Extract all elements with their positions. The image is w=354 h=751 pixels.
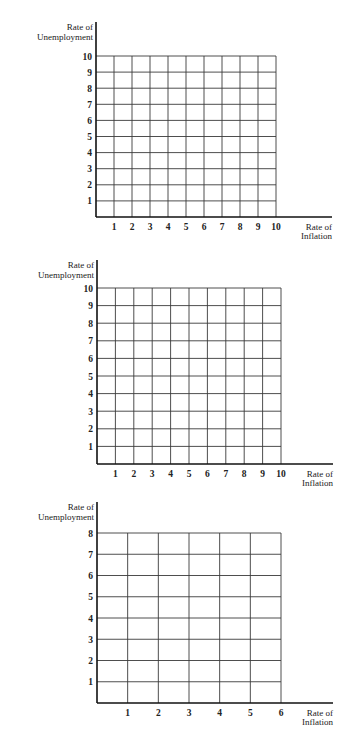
x-tick-label: 5 — [184, 222, 189, 232]
y-tick-label: 2 — [87, 180, 92, 190]
x-tick-label: 2 — [156, 708, 161, 718]
x-tick-label: 3 — [187, 708, 192, 718]
x-tick-label: 3 — [148, 222, 153, 232]
y-tick-label: 4 — [88, 389, 93, 399]
chart-canvas: 1234567891012345678910Rate ofUnemploymen… — [0, 0, 354, 751]
x-axis-label: Rate ofInflation — [301, 222, 332, 241]
y-tick-label: 6 — [88, 571, 93, 581]
y-axis-label: Rate ofUnemployment — [38, 260, 94, 280]
x-tick-label: 1 — [125, 708, 130, 718]
x-tick-label: 5 — [248, 708, 253, 718]
grid — [97, 288, 281, 464]
x-tick-label: 4 — [166, 222, 171, 232]
chart-2: 1234567891012345678910Rate ofUnemploymen… — [38, 260, 333, 488]
chart-1: 1234567891012345678910Rate ofUnemploymen… — [37, 22, 332, 241]
y-tick-label: 5 — [87, 132, 92, 142]
x-tick-label: 6 — [202, 222, 207, 232]
y-tick-label: 2 — [88, 656, 93, 666]
grid — [96, 56, 276, 217]
y-tick-label: 1 — [87, 196, 92, 206]
x-tick-label: 6 — [205, 469, 210, 479]
y-tick-label: 5 — [88, 372, 93, 382]
y-tick-label: 3 — [87, 164, 92, 174]
x-tick-label: 7 — [223, 469, 228, 479]
x-tick-label: 10 — [271, 222, 281, 232]
x-axis-label: Rate ofInflation — [302, 708, 333, 727]
x-tick-label: 9 — [260, 469, 265, 479]
y-axis-label: Rate ofUnemployment — [37, 22, 93, 42]
x-tick-label: 8 — [242, 469, 247, 479]
y-tick-label: 8 — [88, 529, 93, 539]
y-tick-label: 1 — [88, 677, 93, 687]
y-tick-label: 3 — [88, 407, 93, 417]
x-tick-label: 8 — [238, 222, 243, 232]
x-tick-label: 2 — [131, 469, 136, 479]
grid — [97, 533, 281, 703]
y-tick-label: 10 — [83, 52, 93, 62]
x-tick-label: 1 — [113, 469, 118, 479]
x-tick-label: 3 — [150, 469, 155, 479]
x-tick-label: 10 — [276, 469, 286, 479]
y-tick-label: 7 — [88, 550, 93, 560]
y-tick-label: 7 — [87, 100, 92, 110]
x-axis-label: Rate ofInflation — [302, 469, 333, 488]
y-tick-label: 5 — [88, 592, 93, 602]
chart-3: 12345678123456Rate ofUnemploymentRate of… — [38, 502, 333, 727]
y-tick-label: 4 — [88, 614, 93, 624]
y-tick-label: 10 — [84, 284, 94, 294]
y-tick-label: 3 — [88, 635, 93, 645]
y-tick-label: 6 — [87, 116, 92, 126]
x-tick-label: 9 — [256, 222, 261, 232]
x-tick-label: 1 — [112, 222, 117, 232]
y-tick-label: 2 — [88, 424, 93, 434]
y-tick-label: 9 — [88, 301, 93, 311]
x-tick-label: 7 — [220, 222, 225, 232]
y-tick-label: 4 — [87, 148, 92, 158]
y-tick-label: 8 — [87, 84, 92, 94]
y-tick-label: 8 — [88, 319, 93, 329]
y-tick-label: 7 — [88, 336, 93, 346]
y-tick-label: 6 — [88, 354, 93, 364]
x-tick-label: 2 — [130, 222, 135, 232]
y-axis-label: Rate ofUnemployment — [38, 502, 94, 522]
x-tick-label: 5 — [187, 469, 192, 479]
y-tick-label: 1 — [88, 442, 93, 452]
x-tick-label: 6 — [279, 708, 284, 718]
y-tick-label: 9 — [87, 68, 92, 78]
x-tick-label: 4 — [168, 469, 173, 479]
x-tick-label: 4 — [217, 708, 222, 718]
